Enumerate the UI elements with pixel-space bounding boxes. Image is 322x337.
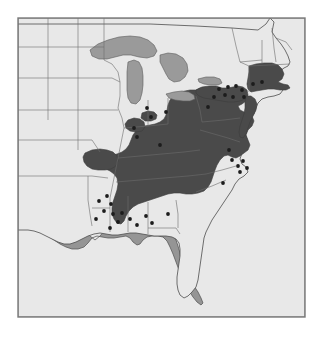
locality-dot (234, 84, 238, 88)
locality-dot (109, 202, 113, 206)
locality-dot (145, 106, 149, 110)
locality-dot (206, 105, 210, 109)
locality-dot (241, 159, 245, 163)
map-svg (0, 0, 322, 337)
locality-dot (108, 226, 112, 230)
distribution-map-figure (0, 0, 322, 337)
locality-dot (120, 211, 124, 215)
map-content-group (18, 18, 305, 317)
locality-dot (230, 158, 234, 162)
locality-dot (116, 220, 120, 224)
locality-dot (245, 166, 249, 170)
locality-dot (94, 217, 98, 221)
locality-dot (236, 164, 240, 168)
locality-dot (144, 214, 148, 218)
locality-dot (150, 221, 154, 225)
locality-dot (227, 148, 231, 152)
locality-dot (238, 170, 242, 174)
locality-dot (226, 85, 230, 89)
locality-dot (260, 80, 264, 84)
locality-dot (240, 88, 244, 92)
locality-dot (135, 135, 139, 139)
locality-dot (111, 212, 115, 216)
locality-dot (128, 217, 132, 221)
locality-dot (149, 115, 153, 119)
locality-dot (164, 110, 168, 114)
locality-dot (242, 95, 246, 99)
range-shaded-ozarks (83, 149, 118, 170)
range-shaded-michigan-patch (141, 111, 157, 121)
lake-michigan (127, 60, 143, 104)
locality-dot (97, 199, 101, 203)
locality-dot (166, 212, 170, 216)
locality-dot (223, 93, 227, 97)
locality-dot (102, 209, 106, 213)
locality-dot (212, 95, 216, 99)
locality-dot (221, 181, 225, 185)
locality-dot (251, 82, 255, 86)
locality-dot (132, 126, 136, 130)
locality-dot (158, 143, 162, 147)
locality-dot (135, 223, 139, 227)
locality-dot (105, 194, 109, 198)
locality-dot (217, 87, 221, 91)
locality-dot (231, 95, 235, 99)
